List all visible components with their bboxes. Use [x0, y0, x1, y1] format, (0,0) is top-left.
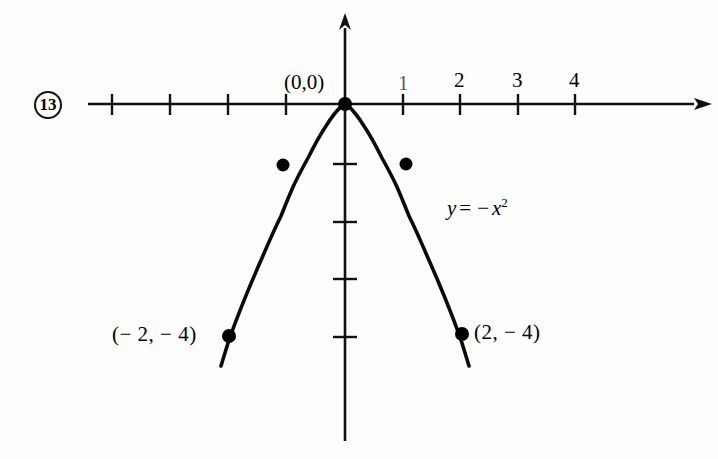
equation-sign: −: [474, 196, 492, 220]
graph-canvas: [0, 0, 718, 459]
point-neg2-neg4: [222, 329, 236, 343]
equation-variable: x: [492, 196, 501, 220]
point-label-right: (2, − 4): [474, 322, 541, 343]
parabola-figure: 13 1 2 3 4 (0,0) (− 2, − 4) (2, − 4) y=−…: [0, 0, 718, 459]
x-tick-label-4: 4: [569, 70, 580, 91]
origin-point-label: (0,0): [284, 72, 324, 93]
equation-label: y=−x2: [447, 198, 508, 219]
point-neg1-neg1: [277, 159, 290, 172]
equation-lhs: y: [447, 196, 456, 220]
point-1-neg1: [400, 158, 413, 171]
point-2-neg4: [455, 327, 469, 341]
x-tick-label-3: 3: [512, 70, 523, 91]
equation-operator: =: [456, 196, 474, 220]
problem-number-badge: 13: [34, 91, 62, 119]
y-axis-arrow-icon: [339, 13, 351, 30]
equation-exponent: 2: [501, 195, 508, 210]
point-label-left: (− 2, − 4): [112, 324, 197, 345]
x-axis-arrow-icon: [694, 98, 712, 110]
x-tick-label-1: 1: [398, 73, 409, 94]
point-origin: [338, 97, 352, 111]
x-tick-label-2: 2: [454, 70, 465, 91]
